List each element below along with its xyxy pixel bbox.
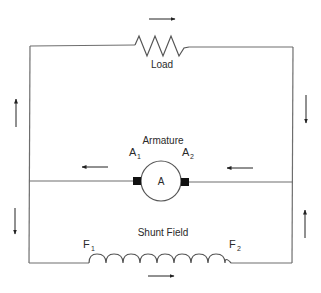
right-wire: [292, 47, 293, 263]
brush-a1: [133, 177, 141, 185]
svg-text:A: A: [182, 146, 190, 158]
top-wire: [30, 45, 293, 47]
left-wire: [29, 46, 30, 263]
svg-text:1: 1: [137, 153, 141, 160]
svg-text:2: 2: [190, 153, 194, 160]
brush-a2: [181, 178, 189, 186]
terminal-a1-label: A 1: [129, 146, 141, 160]
svg-text:F: F: [83, 238, 90, 250]
load-resistor: [135, 36, 189, 56]
shunt-field-coil: [89, 254, 231, 263]
svg-text:F: F: [229, 238, 236, 250]
svg-text:A: A: [129, 146, 137, 158]
svg-text:2: 2: [237, 245, 241, 252]
armature-label: Armature: [142, 135, 184, 146]
armature-symbol: A: [158, 176, 165, 187]
terminal-f1-label: F 1: [83, 238, 95, 252]
svg-text:1: 1: [91, 245, 95, 252]
terminal-a2-label: A 2: [182, 146, 194, 160]
circuit-diagram: Load A Armature A 1 A 2 Shunt Field F 1 …: [0, 0, 321, 293]
shunt-field-label: Shunt Field: [138, 227, 189, 238]
terminal-f2-label: F 2: [229, 238, 241, 252]
load-label: Load: [151, 59, 173, 70]
